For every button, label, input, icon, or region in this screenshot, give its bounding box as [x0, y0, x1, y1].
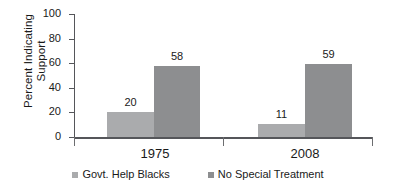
x-axis-category-1975: 1975 — [110, 146, 200, 161]
legend-item-govt-help-blacks[interactable]: Govt. Help Blacks — [72, 168, 169, 181]
bar-1975-govt-help-blacks[interactable]: 20 — [107, 112, 154, 137]
y-axis-tick-40: 40 — [69, 88, 74, 89]
legend-item-no-special-treatment[interactable]: No Special Treatment — [208, 168, 324, 181]
y-axis-tick-60: 60 — [69, 63, 74, 64]
y-axis-tick-80: 80 — [69, 39, 74, 40]
bar-2008-no-special-treatment[interactable]: 59 — [305, 64, 352, 137]
x-axis-tick-start — [74, 137, 75, 146]
y-axis-tick-20: 20 — [69, 112, 74, 113]
y-axis-tick-label-20: 20 — [49, 105, 61, 117]
bar-2008-govt-help-blacks[interactable]: 11 — [258, 124, 305, 138]
x-axis-category-2008: 2008 — [260, 146, 350, 161]
plot-area: 100 80 60 40 20 0 20 58 11 — [74, 14, 373, 137]
bar-chart: Percent Indicating Support 100 80 60 40 … — [0, 0, 396, 189]
bar-value-label: 58 — [171, 50, 183, 62]
legend-label: No Special Treatment — [218, 168, 324, 181]
legend: Govt. Help Blacks No Special Treatment — [0, 168, 396, 181]
x-axis-tick-end — [372, 137, 373, 146]
legend-label: Govt. Help Blacks — [82, 168, 169, 181]
y-axis-tick-label-80: 80 — [49, 32, 61, 44]
y-axis-tick-100: 100 — [69, 14, 74, 15]
bar-value-label: 20 — [124, 96, 136, 108]
bar-1975-no-special-treatment[interactable]: 58 — [154, 66, 200, 137]
bar-value-label: 59 — [322, 48, 334, 60]
y-axis-title-line2: Support — [35, 0, 48, 131]
legend-swatch-icon — [72, 172, 78, 178]
y-axis-line — [74, 14, 75, 138]
y-axis-tick-label-100: 100 — [43, 7, 61, 19]
y-axis-title: Percent Indicating Support — [22, 0, 48, 131]
x-axis-tick-divider — [223, 137, 224, 146]
y-axis-tick-label-60: 60 — [49, 56, 61, 68]
legend-swatch-icon — [208, 172, 214, 178]
y-axis-tick-label-40: 40 — [49, 81, 61, 93]
y-axis-title-line1: Percent Indicating — [22, 14, 34, 108]
bar-value-label: 11 — [276, 108, 287, 120]
y-axis-tick-label-0: 0 — [55, 130, 61, 142]
